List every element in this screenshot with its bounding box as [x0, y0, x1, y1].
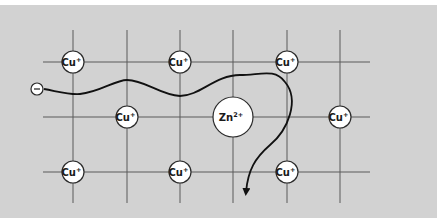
cu-ion: Cu+ — [276, 161, 298, 183]
cu-ion: Cu+ — [276, 51, 298, 73]
cu-ion: Cu+ — [169, 51, 191, 73]
cu-ion: Cu+ — [116, 106, 138, 128]
crystal-lattice-diagram: Cu+Cu+Cu+Cu+Zn2+Cu+Cu+Cu+Cu+ — [0, 0, 441, 218]
cu-ion: Cu+ — [329, 106, 351, 128]
electron — [31, 83, 43, 95]
zn-ion: Zn2+ — [213, 97, 253, 137]
cu-ion: Cu+ — [62, 161, 84, 183]
cu-ion: Cu+ — [169, 161, 191, 183]
lattice-grid — [43, 30, 370, 203]
cu-ion: Cu+ — [62, 51, 84, 73]
